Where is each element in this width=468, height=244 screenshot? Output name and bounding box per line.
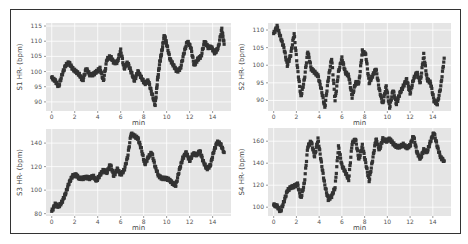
data-point: [307, 53, 310, 56]
data-point: [294, 49, 297, 52]
data-point: [331, 73, 334, 76]
data-point: [330, 61, 333, 64]
data-point: [293, 35, 296, 38]
x-tick-label: 10: [384, 218, 392, 225]
data-point: [350, 150, 353, 153]
data-point: [304, 164, 307, 167]
y-tick-label: 105: [253, 44, 265, 51]
data-point: [280, 208, 283, 211]
data-point: [305, 153, 308, 156]
data-point: [149, 87, 152, 90]
data-point: [202, 47, 205, 50]
data-point: [223, 151, 226, 154]
data-point: [348, 168, 351, 171]
x-tick-label: 2: [73, 218, 77, 225]
data-point: [375, 72, 378, 75]
data-point: [327, 79, 330, 82]
data-point: [365, 62, 368, 65]
data-point: [156, 170, 159, 173]
data-point: [310, 142, 313, 145]
data-point: [126, 157, 129, 160]
data-point: [282, 46, 285, 49]
data-point: [437, 147, 440, 150]
data-point: [317, 75, 320, 78]
data-point: [437, 94, 440, 97]
x-tick-label: 14: [209, 113, 217, 120]
figure-canvas: 024681012149095100105110115minS1 HR- (bp…: [0, 0, 468, 244]
data-point: [357, 80, 360, 83]
data-point: [307, 56, 310, 59]
x-tick-label: 4: [317, 113, 321, 120]
data-point: [367, 74, 370, 77]
chart-panel-2: 024681012149095100105110minS2 HR- (bpm): [238, 23, 451, 127]
data-point: [296, 70, 299, 73]
data-point: [305, 160, 308, 163]
data-point: [126, 154, 129, 157]
data-point: [414, 146, 417, 149]
data-point: [156, 83, 159, 86]
data-point: [342, 63, 345, 66]
data-point: [443, 159, 446, 162]
data-point: [420, 75, 423, 78]
data-point: [334, 176, 337, 179]
data-point: [365, 167, 368, 170]
data-point: [128, 141, 131, 144]
data-point: [438, 151, 441, 154]
data-point: [158, 67, 161, 70]
x-tick-label: 6: [119, 218, 123, 225]
data-point: [220, 27, 223, 30]
data-point: [325, 89, 328, 92]
data-point: [104, 62, 107, 65]
data-point: [330, 196, 333, 199]
data-point: [337, 147, 340, 150]
data-point: [174, 184, 177, 187]
x-tick-label: 4: [317, 218, 321, 225]
data-point: [332, 191, 335, 194]
data-point: [320, 87, 323, 90]
data-point: [221, 147, 224, 150]
data-point: [431, 93, 434, 96]
data-point: [348, 82, 351, 85]
x-tick-label: 12: [406, 218, 414, 225]
data-point: [411, 84, 414, 87]
data-point: [318, 148, 321, 151]
x-tick-label: 14: [429, 113, 437, 120]
data-point: [300, 92, 303, 95]
data-point: [385, 84, 388, 87]
data-point: [295, 53, 298, 56]
data-point: [379, 145, 382, 148]
data-point: [141, 154, 144, 157]
data-point: [416, 73, 419, 76]
data-point: [104, 67, 107, 70]
data-point: [181, 55, 184, 58]
y-axis-label: S4 HR- (bpm): [238, 148, 246, 195]
y-tick-label: 140: [31, 139, 43, 146]
data-point: [119, 47, 122, 50]
data-point: [199, 150, 202, 153]
data-point: [426, 148, 429, 151]
data-point: [218, 42, 221, 45]
data-point: [148, 83, 151, 86]
data-point: [283, 200, 286, 203]
y-tick-label: 80: [34, 210, 42, 217]
data-point: [359, 70, 362, 73]
data-point: [332, 79, 335, 82]
data-point: [293, 32, 296, 35]
data-point: [325, 92, 328, 95]
data-point: [309, 61, 312, 64]
data-point: [436, 103, 439, 106]
data-point: [154, 96, 157, 99]
data-point: [359, 64, 362, 67]
data-point: [352, 89, 355, 92]
y-axis-label: S3 HR- (bpm): [16, 149, 24, 196]
data-point: [336, 156, 339, 159]
data-point: [388, 105, 391, 108]
data-point: [322, 172, 325, 175]
data-point: [303, 178, 306, 181]
data-point: [103, 74, 106, 77]
data-point: [335, 90, 338, 93]
data-point: [298, 85, 301, 88]
y-tick-label: 110: [253, 26, 265, 33]
data-point: [373, 149, 376, 152]
data-point: [362, 152, 365, 155]
